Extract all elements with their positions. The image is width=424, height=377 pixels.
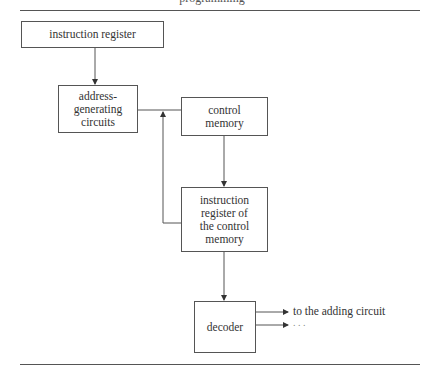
control-memory-line-1: control <box>208 104 241 117</box>
control-memory-line-2: memory <box>205 117 243 130</box>
ircm-line-3: the control <box>200 220 250 233</box>
ircm-line-4: memory <box>205 233 243 246</box>
bottom-rule <box>20 364 420 365</box>
address-generating-line-1: address- <box>79 90 117 103</box>
address-generating-box: address- generating circuits <box>58 85 138 133</box>
output-label-adding-circuit: to the adding circuit <box>293 305 385 317</box>
output-label-ellipsis: . . . <box>293 317 306 328</box>
ircm-line-2: register of <box>201 207 248 220</box>
control-memory-box: control memory <box>181 97 268 136</box>
ircm-line-1: instruction <box>200 194 249 207</box>
arrow-feedback <box>163 112 181 223</box>
instruction-register-box: instruction register <box>21 21 164 48</box>
instruction-register-label: instruction register <box>49 28 136 41</box>
address-generating-line-2: generating <box>74 103 123 116</box>
decoder-label: decoder <box>207 321 243 334</box>
decoder-box: decoder <box>194 301 256 353</box>
address-generating-line-3: circuits <box>81 116 115 129</box>
ir-control-memory-box: instruction register of the control memo… <box>181 187 268 252</box>
